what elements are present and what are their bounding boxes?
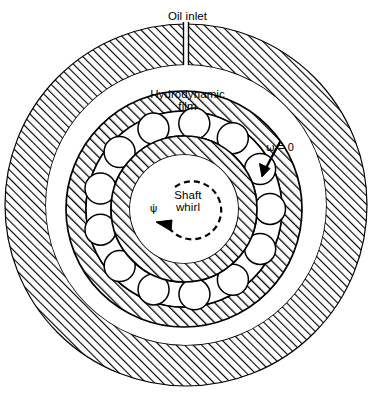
shaft-whirl-label-line2: whirl <box>155 201 221 213</box>
omega-label: ω = 0 <box>266 142 294 154</box>
oil-inlet-label: Oil inlet <box>0 10 375 22</box>
hydrodynamic-film-label-line1: Hydrodynamic <box>150 88 225 100</box>
hydrodynamic-film-label: Hydrodynamicfilm <box>0 88 375 113</box>
shaft-whirl-label-line1: Shaft <box>174 189 201 201</box>
omega-equation: = 0 <box>275 141 294 153</box>
bearing-cross-section-figure: Oil inlet Hydrodynamicfilm ω = 0 Shaftwh… <box>0 0 375 395</box>
omega-symbol: ω <box>266 141 275 153</box>
hydrodynamic-film-label-line2: film <box>0 100 375 112</box>
shaft-whirl-label: Shaftwhirl <box>155 189 221 214</box>
whirl-rate-symbol-label: ψ̇ <box>150 203 157 215</box>
